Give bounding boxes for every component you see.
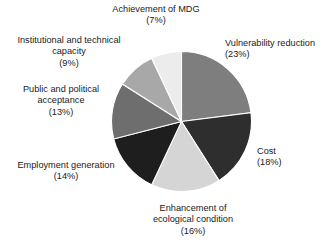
slice-label-percent: (13%) <box>3 107 119 118</box>
pie-chart-figure: Achievement of MDG (7%) Institutional an… <box>0 0 335 245</box>
slice-label-text: Achievement of MDG <box>112 4 199 14</box>
slice-label-percent: (18%) <box>257 157 327 168</box>
slice-label-percent: (16%) <box>134 226 252 237</box>
slice-label-employment-generation: Employment generation (14%) <box>0 160 132 183</box>
slice-label-percent: (7%) <box>96 15 216 26</box>
slice-label-achievement-of-mdg: Achievement of MDG (7%) <box>96 4 216 27</box>
slice-label-percent: (23%) <box>225 49 333 60</box>
pie-slice <box>182 52 251 122</box>
slice-label-percent: (9%) <box>2 58 136 69</box>
slice-label-text: Public and political <box>23 84 99 94</box>
pie-svg <box>111 51 252 192</box>
slice-label-public-and-political-acceptance: Public and political acceptance (13%) <box>3 84 119 118</box>
slice-label-enhancement-of-ecological-condition: Enhancement of ecological condition (16%… <box>134 203 252 237</box>
slice-label-text: Vulnerability reduction <box>225 38 315 48</box>
slice-label-percent: (14%) <box>0 171 132 182</box>
slice-label-text-2: ecological condition <box>134 214 252 225</box>
slice-label-cost: Cost (18%) <box>257 146 327 169</box>
pie-slice-group <box>111 52 251 192</box>
pie-chart-graphic <box>111 51 252 192</box>
slice-label-text-2: acceptance <box>3 95 119 106</box>
slice-label-vulnerability-reduction: Vulnerability reduction (23%) <box>225 38 333 61</box>
slice-label-text: Institutional and technical <box>17 35 120 45</box>
slice-label-text: Cost <box>257 146 276 156</box>
slice-label-text-2: capacity <box>2 46 136 57</box>
slice-label-text: Enhancement of <box>160 203 227 213</box>
slice-label-text: Employment generation <box>17 160 114 170</box>
slice-label-institutional-and-technical-capacity: Institutional and technical capacity (9%… <box>2 35 136 69</box>
